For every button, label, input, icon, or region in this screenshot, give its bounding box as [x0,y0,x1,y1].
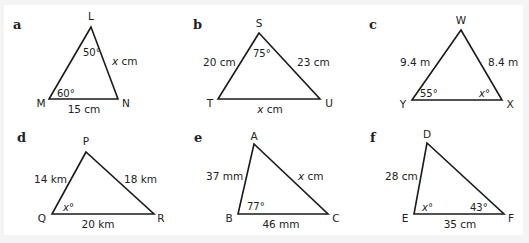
vertex-label-Y: Y [399,98,407,110]
side-length-label: 14 km [34,173,67,185]
angle-label: 55° [420,88,438,99]
problem-label: e [194,130,202,145]
side-length-label: 28 cm [385,170,418,182]
vertex-label-T: T [206,97,214,109]
side-length-label: 46 mm [262,218,299,230]
vertex-label-C: C [332,212,339,224]
side-length-label: 23 cm [297,56,330,68]
vertex-label-P: P [83,135,89,147]
angle-label: x° [421,202,433,213]
vertex-label-U: U [325,97,333,109]
problem-label: c [369,17,377,32]
vertex-label-D: D [423,128,431,140]
triangle-problem-c: cWYX9.4 m8.4 m55°x° [369,14,518,110]
angle-label: 50° [83,47,101,58]
side-length-label: 20 cm [203,56,236,68]
triangle-problem-a: aLMNx cm15 cm50°60° [13,10,138,115]
triangle-problem-b: bSTU20 cm23 cmx cm75° [193,17,333,115]
vertex-label-M: M [36,97,45,109]
side-length-label: x cm [111,55,138,67]
vertex-label-X: X [506,98,513,110]
triangle-problem-f: fDEF28 cm35 cmx°43° [370,128,514,230]
side-length-label: 35 cm [444,218,477,230]
angle-label: 43° [470,202,488,213]
side-length-label: 20 km [81,218,114,230]
side-length-label: 8.4 m [488,56,518,68]
vertex-label-N: N [122,97,130,109]
vertex-label-R: R [157,212,164,224]
problem-label: d [17,130,26,145]
vertex-label-F: F [508,212,514,224]
side-length-label: 15 cm [68,103,101,115]
triangle-problem-e: eABC37 mmx cm46 mm77° [194,130,340,230]
side-length-label: 9.4 m [400,56,430,68]
triangles-diagram: aLMNx cm15 cm50°60°bSTU20 cm23 cmx cm75°… [0,0,529,243]
angle-label: 60° [57,88,75,99]
vertex-label-E: E [402,212,409,224]
side-length-label: x cm [297,170,324,182]
triangle-problem-d: dPQR14 km18 km20 kmx° [17,130,165,230]
side-length-label: 18 km [124,173,157,185]
vertex-label-S: S [256,17,263,29]
side-length-label: x cm [256,103,283,115]
angle-label: x° [62,202,74,213]
vertex-label-Q: Q [38,212,46,224]
problem-label: a [13,17,22,32]
vertex-label-B: B [225,212,232,224]
problem-label: b [193,17,202,32]
angle-label: 75° [253,48,271,59]
vertex-label-A: A [250,130,258,142]
vertex-label-W: W [456,14,467,26]
angle-label: x° [478,88,490,99]
problem-label: f [370,130,377,145]
side-length-label: 37 mm [206,170,243,182]
vertex-label-L: L [88,10,94,22]
angle-label: 77° [247,201,265,212]
